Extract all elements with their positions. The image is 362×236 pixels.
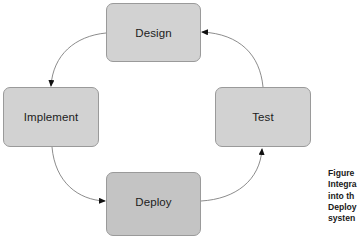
- caption-line: Deploy: [328, 202, 362, 213]
- arrow-implement-to-deploy: [52, 147, 105, 201]
- node-deploy-label: Deploy: [135, 196, 171, 208]
- node-test: Test: [215, 87, 311, 147]
- arrow-design-to-implement: [51, 33, 106, 86]
- caption-line: into th: [328, 191, 362, 202]
- node-test-label: Test: [252, 111, 274, 123]
- figure-caption: Figure Integra into th Deploy systen: [328, 168, 362, 224]
- node-design: Design: [106, 3, 201, 62]
- node-design-label: Design: [135, 27, 171, 39]
- node-implement-label: Implement: [24, 111, 79, 123]
- caption-line: Figure: [328, 168, 362, 179]
- arrow-deploy-to-test: [201, 149, 262, 201]
- caption-line: Integra: [328, 179, 362, 190]
- node-deploy: Deploy: [106, 172, 201, 236]
- node-implement: Implement: [3, 87, 99, 147]
- arrow-test-to-design: [202, 32, 263, 87]
- caption-line: systen: [328, 213, 362, 224]
